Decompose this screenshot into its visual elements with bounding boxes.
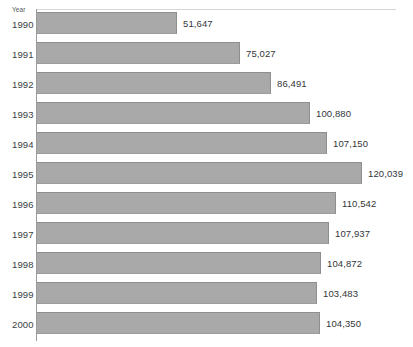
bar-container[interactable]: [37, 72, 271, 94]
bar-row: 1999103,483: [0, 280, 413, 310]
bar-container[interactable]: [37, 222, 329, 244]
bar-row: 1998104,872: [0, 250, 413, 280]
value-label: 75,027: [246, 48, 276, 59]
bar-container[interactable]: [37, 282, 317, 304]
value-label: 100,880: [316, 108, 351, 119]
bar[interactable]: [37, 12, 177, 34]
value-label: 110,542: [342, 198, 376, 209]
bar-row: 1993100,880: [0, 100, 413, 130]
category-label: 1993: [12, 109, 34, 120]
bar-container[interactable]: [37, 192, 336, 214]
bar-container[interactable]: [37, 132, 327, 154]
bar[interactable]: [37, 252, 321, 274]
bar[interactable]: [37, 282, 317, 304]
bar-row: 1996110,542: [0, 190, 413, 220]
bar-container[interactable]: [37, 102, 310, 124]
bar[interactable]: [37, 162, 362, 184]
category-label: 1997: [12, 229, 34, 240]
category-label: 1992: [12, 79, 34, 90]
bar-row: 199051,647: [0, 10, 413, 40]
bar-chart: Year 199051,647199175,027199286,49119931…: [0, 0, 413, 347]
bar-row: 199286,491: [0, 70, 413, 100]
value-label: 107,937: [335, 228, 370, 239]
category-label: 1999: [12, 289, 34, 300]
value-label: 120,039: [368, 168, 403, 179]
category-label: 2000: [12, 319, 34, 330]
value-label: 86,491: [277, 78, 307, 89]
bar-row: 1995120,039: [0, 160, 413, 190]
bar-container[interactable]: [37, 252, 321, 274]
bar-container[interactable]: [37, 12, 177, 34]
bar-row: 199175,027: [0, 40, 413, 70]
category-label: 1996: [12, 199, 34, 210]
bar-row: 1997107,937: [0, 220, 413, 250]
bar[interactable]: [37, 102, 310, 124]
bar[interactable]: [37, 132, 327, 154]
bar[interactable]: [37, 222, 329, 244]
value-label: 51,647: [183, 18, 213, 29]
category-label: 1991: [12, 49, 34, 60]
bar[interactable]: [37, 72, 271, 94]
bar-container[interactable]: [37, 312, 320, 334]
bar-row: 1994107,150: [0, 130, 413, 160]
value-label: 104,350: [326, 318, 361, 329]
value-label: 104,872: [327, 258, 362, 269]
bar[interactable]: [37, 42, 240, 64]
bar-container[interactable]: [37, 42, 240, 64]
bar-row: 2000104,350: [0, 310, 413, 340]
bar-container[interactable]: [37, 162, 362, 184]
category-label: 1998: [12, 259, 34, 270]
bar[interactable]: [37, 312, 320, 334]
category-label: 1995: [12, 169, 34, 180]
category-label: 1994: [12, 139, 34, 150]
value-label: 103,483: [323, 288, 358, 299]
bar-rows: 199051,647199175,027199286,4911993100,88…: [0, 10, 413, 340]
bar[interactable]: [37, 192, 336, 214]
value-label: 107,150: [333, 138, 368, 149]
category-label: 1990: [12, 19, 34, 30]
